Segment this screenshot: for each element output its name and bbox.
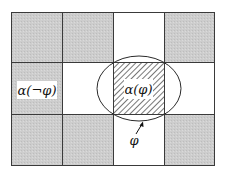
grid-cell-r1-c3 [164, 62, 215, 114]
grid-cell-r0-c2 [113, 12, 164, 62]
phi-cell-label: α(φ) [124, 82, 152, 97]
neg-phi-label: α(¬φ) [18, 83, 57, 98]
grid-cell-r1-c1 [62, 62, 113, 114]
phi-region-label: φ [129, 133, 139, 148]
grid-cell-r0-c3 [164, 12, 215, 62]
grid-cell-r0-c0 [11, 12, 62, 62]
grid-cell-r2-c1 [62, 114, 113, 166]
grid-cell-r2-c0 [11, 114, 62, 166]
grid-cell-r0-c1 [62, 12, 113, 62]
grid-cell-r2-c3 [164, 114, 215, 166]
diagram-canvas: α(¬φ) α(φ) φ [0, 0, 225, 175]
